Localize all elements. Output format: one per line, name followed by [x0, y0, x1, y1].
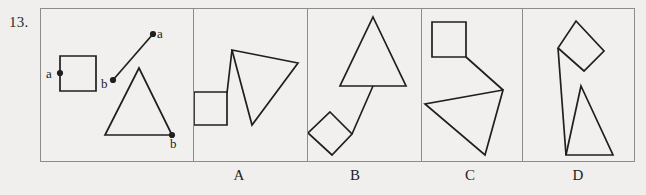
vertex-label-square-left-vertex: a — [46, 66, 52, 82]
vertex-label-segment-lower-endpoint: b — [101, 76, 108, 92]
question-figure-root: 13. abab ABCD — [0, 0, 646, 195]
panel-divider-4 — [522, 8, 523, 162]
panel-divider-3 — [421, 8, 422, 162]
option-label-a[interactable]: A — [224, 167, 254, 184]
question-number: 13. — [9, 14, 28, 31]
figure-frame — [40, 8, 635, 162]
vertex-label-segment-upper-endpoint: a — [157, 26, 163, 42]
vertex-label-triangle-right-vertex: b — [170, 136, 177, 152]
panel-divider-2 — [307, 8, 308, 162]
option-label-c[interactable]: C — [455, 167, 485, 184]
option-label-b[interactable]: B — [340, 167, 370, 184]
panel-divider-1 — [193, 8, 194, 162]
option-label-d[interactable]: D — [563, 167, 593, 184]
